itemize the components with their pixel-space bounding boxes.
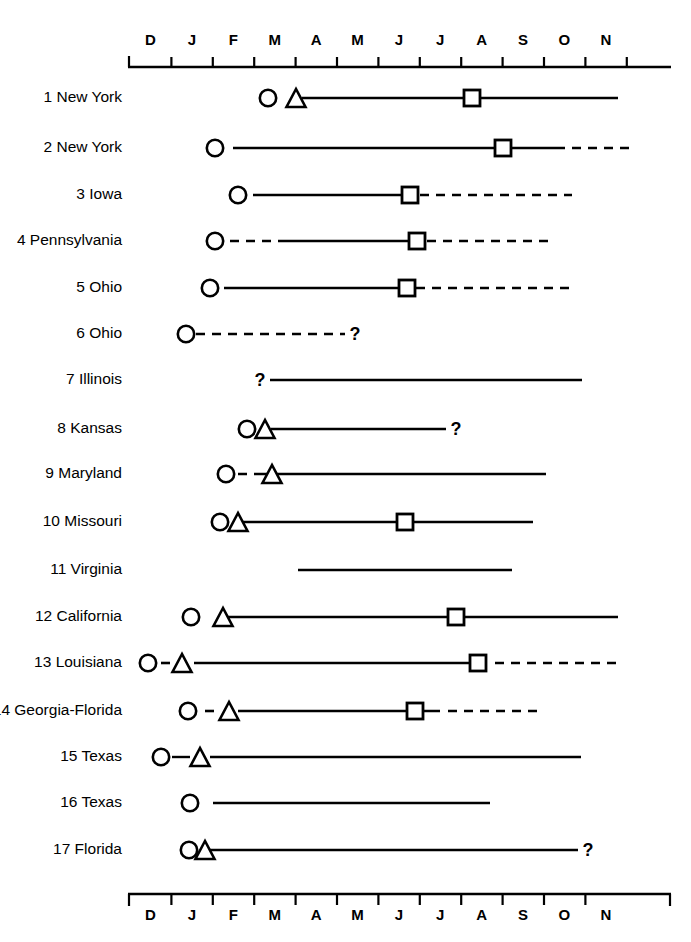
chart-row: 7 Illinois?	[66, 370, 582, 390]
axis-top: DJFMAMJJASON	[128, 31, 671, 67]
row-label: 10 Missouri	[43, 512, 122, 529]
square-marker	[402, 187, 418, 203]
axis-top-tick-label: S	[518, 31, 529, 48]
chart-row: 6 Ohio?	[76, 324, 360, 344]
square-marker	[448, 609, 464, 625]
circle-marker	[140, 655, 156, 671]
chart-row: 1 New York	[44, 88, 618, 107]
axis-top-tick-label: M	[351, 31, 364, 48]
row-label: 7 Illinois	[66, 370, 122, 387]
chart-row: 15 Texas	[60, 747, 581, 766]
axis-top-tick-label: J	[188, 31, 197, 48]
axis-bottom-tick-label: M	[268, 906, 281, 923]
chart-row: 17 Florida?	[53, 840, 593, 860]
circle-marker	[218, 466, 234, 482]
row-label: 1 New York	[44, 88, 123, 105]
circle-marker	[183, 609, 199, 625]
axis-bottom-tick-label: O	[559, 906, 571, 923]
circle-marker	[207, 140, 223, 156]
square-marker	[407, 703, 423, 719]
axis-bottom-tick-label: J	[436, 906, 445, 923]
circle-marker	[212, 514, 228, 530]
square-marker	[397, 514, 413, 530]
circle-marker	[207, 233, 223, 249]
chart-row: 14 Georgia-Florida	[0, 701, 544, 720]
axis-bottom-tick-label: A	[476, 906, 487, 923]
axis-top-tick-label: A	[476, 31, 487, 48]
triangle-marker	[173, 654, 192, 672]
row-label: 14 Georgia-Florida	[0, 701, 122, 718]
axis-top-tick-label: J	[395, 31, 404, 48]
axis-top-tick-label: O	[559, 31, 571, 48]
row-label: 6 Ohio	[76, 324, 122, 341]
chart-row: 8 Kansas?	[57, 419, 461, 439]
square-marker	[470, 655, 486, 671]
axis-bottom-tick-label: J	[395, 906, 404, 923]
chart-row: 2 New York	[44, 138, 629, 156]
axis-top-tick-label: D	[145, 31, 156, 48]
chart-rows: 1 New York2 New York3 Iowa4 Pennsylvania…	[0, 88, 629, 860]
chart-row: 12 California	[35, 607, 618, 626]
circle-marker	[239, 421, 255, 437]
chart-canvas: DJFMAMJJASON DJFMAMJJASON 1 New York2 Ne…	[0, 0, 691, 942]
triangle-marker	[191, 748, 210, 766]
square-marker	[399, 280, 415, 296]
row-label: 15 Texas	[60, 747, 122, 764]
axis-bottom-tick-label: F	[229, 906, 239, 923]
row-label: 2 New York	[44, 138, 123, 155]
circle-marker	[181, 842, 197, 858]
chart-row: 10 Missouri	[43, 512, 533, 531]
chart-row: 16 Texas	[60, 793, 490, 811]
question-mark: ?	[350, 324, 361, 344]
chart-row: 13 Louisiana	[34, 653, 620, 672]
square-marker	[464, 90, 480, 106]
triangle-marker	[220, 702, 239, 720]
axis-bottom-tick-label: D	[145, 906, 156, 923]
axis-bottom: DJFMAMJJASON	[128, 894, 671, 923]
chart-row: 4 Pennsylvania	[17, 231, 553, 249]
question-mark: ?	[583, 840, 594, 860]
circle-marker	[260, 90, 276, 106]
axis-top-tick-label: M	[268, 31, 281, 48]
circle-marker	[180, 703, 196, 719]
row-label: 8 Kansas	[57, 419, 122, 436]
row-label: 17 Florida	[53, 840, 122, 857]
axis-bottom-tick-label: A	[311, 906, 322, 923]
row-label: 11 Virginia	[50, 560, 122, 577]
chart-row: 5 Ohio	[76, 278, 572, 296]
circle-marker	[182, 795, 198, 811]
timeline-chart-figure: DJFMAMJJASON DJFMAMJJASON 1 New York2 Ne…	[0, 0, 691, 942]
row-label: 13 Louisiana	[34, 653, 122, 670]
square-marker	[409, 233, 425, 249]
axis-bottom-tick-label: J	[188, 906, 197, 923]
axis-top-tick-label: N	[600, 31, 611, 48]
chart-row: 11 Virginia	[50, 560, 512, 577]
square-marker	[495, 140, 511, 156]
question-mark: ?	[255, 370, 266, 390]
axis-bottom-tick-label: M	[351, 906, 364, 923]
row-label: 12 California	[35, 607, 122, 624]
row-label: 9 Maryland	[45, 464, 122, 481]
axis-top-tick-label: A	[311, 31, 322, 48]
chart-row: 3 Iowa	[76, 185, 572, 203]
circle-marker	[178, 326, 194, 342]
row-label: 16 Texas	[60, 793, 122, 810]
circle-marker	[202, 280, 218, 296]
row-label: 4 Pennsylvania	[17, 231, 123, 248]
axis-bottom-tick-label: N	[600, 906, 611, 923]
question-mark: ?	[451, 419, 462, 439]
axis-top-tick-label: F	[229, 31, 239, 48]
axis-bottom-tick-label: S	[518, 906, 529, 923]
row-label: 5 Ohio	[76, 278, 122, 295]
row-label: 3 Iowa	[76, 185, 122, 202]
circle-marker	[153, 749, 169, 765]
axis-top-tick-label: J	[436, 31, 445, 48]
circle-marker	[230, 187, 246, 203]
chart-row: 9 Maryland	[45, 464, 546, 483]
